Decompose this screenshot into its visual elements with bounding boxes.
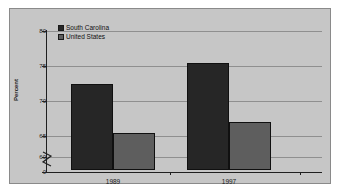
ytick-label-0: 0 bbox=[22, 169, 46, 175]
legend-swatch-icon-united-states bbox=[58, 34, 64, 40]
bar-south-carolina-1989 bbox=[71, 84, 113, 170]
bar-united-states-1989 bbox=[113, 133, 155, 170]
xtick-mark-center bbox=[170, 172, 171, 175]
plot-inner: 80 75 70 65 60 0 Percent South Carolina … bbox=[10, 9, 330, 183]
bar-united-states-1997 bbox=[229, 122, 271, 170]
bar-south-carolina-1997 bbox=[187, 63, 229, 170]
x-axis-line bbox=[46, 172, 322, 173]
ytick-label-80: 80 bbox=[22, 28, 46, 34]
plot-area: 80 75 70 65 60 0 Percent South Carolina … bbox=[9, 8, 331, 184]
ytick-label-75: 75 bbox=[22, 63, 46, 69]
legend-item-united-states: United States bbox=[58, 32, 109, 41]
chart-legend: South Carolina United States bbox=[58, 23, 109, 41]
xtick-mark-right bbox=[300, 172, 301, 175]
chart-figure: 80 75 70 65 60 0 Percent South Carolina … bbox=[0, 0, 342, 194]
legend-label-united-states: United States bbox=[66, 32, 105, 41]
xtick-label-1997: 1997 bbox=[199, 178, 259, 185]
axis-break-icon bbox=[41, 151, 53, 167]
gridline-75 bbox=[46, 66, 322, 67]
y-axis-title: Percent bbox=[13, 68, 19, 112]
legend-swatch-icon-south-carolina bbox=[58, 25, 64, 31]
legend-item-south-carolina: South Carolina bbox=[58, 23, 109, 32]
xtick-label-1989: 1989 bbox=[83, 178, 143, 185]
ytick-label-70: 70 bbox=[22, 98, 46, 104]
legend-label-south-carolina: South Carolina bbox=[66, 23, 109, 32]
ytick-label-65: 65 bbox=[22, 133, 46, 139]
